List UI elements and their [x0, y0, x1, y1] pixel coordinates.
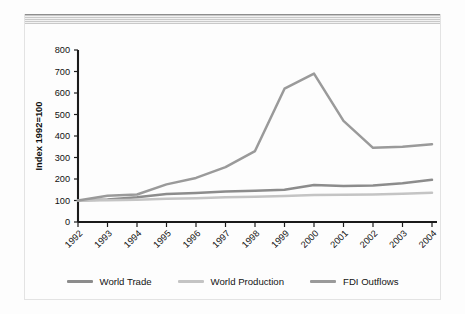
x-tick-label: 2001 — [328, 228, 350, 250]
legend-item-world-trade[interactable]: World Trade — [67, 276, 152, 287]
plot-area: 0100200300400500600700800 19921993199419… — [0, 0, 465, 314]
y-axis-tick-labels: 0100200300400500600700800 — [55, 45, 70, 227]
x-tick-label: 1993 — [92, 228, 114, 250]
x-tick-label: 2004 — [417, 228, 439, 250]
y-tick-label: 800 — [55, 45, 70, 55]
legend-swatch-icon — [67, 280, 93, 283]
chart-legend: World TradeWorld ProductionFDI Outflows — [24, 271, 441, 291]
x-tick-label: 1997 — [210, 228, 232, 250]
legend-label: FDI Outflows — [343, 276, 398, 287]
y-axis-title: Index 1992=100 — [33, 101, 44, 170]
y-tick-label: 600 — [55, 88, 70, 98]
y-tick-label: 700 — [55, 67, 70, 77]
x-axis-tick-labels: 1992199319941995199619971998199920002001… — [63, 228, 439, 250]
legend-item-world-production[interactable]: World Production — [178, 276, 284, 287]
y-tick-label: 100 — [55, 196, 70, 206]
legend-item-fdi-outflows[interactable]: FDI Outflows — [310, 276, 398, 287]
y-tick-label: 200 — [55, 174, 70, 184]
x-tick-label: 1994 — [122, 228, 144, 250]
line-chart-svg: 0100200300400500600700800 19921993199419… — [0, 0, 465, 314]
legend-label: World Trade — [100, 276, 152, 287]
legend-label: World Production — [211, 276, 284, 287]
chart-page: 0100200300400500600700800 19921993199419… — [0, 0, 465, 314]
series-line-fdi-outflows — [78, 74, 432, 201]
x-tick-label: 2000 — [299, 228, 321, 250]
x-tick-label: 1999 — [269, 228, 291, 250]
x-tick-label: 1995 — [151, 228, 173, 250]
y-tick-label: 0 — [65, 217, 70, 227]
x-tick-label: 2002 — [358, 228, 380, 250]
y-tick-label: 400 — [55, 131, 70, 141]
y-tick-label: 500 — [55, 110, 70, 120]
legend-swatch-icon — [178, 280, 204, 283]
x-tick-label: 1998 — [240, 228, 262, 250]
x-tick-label: 2003 — [387, 228, 409, 250]
x-tick-label: 1996 — [181, 228, 203, 250]
legend-swatch-icon — [310, 280, 336, 283]
x-tick-label: 1992 — [63, 228, 85, 250]
data-series-group — [78, 74, 432, 201]
y-tick-label: 300 — [55, 153, 70, 163]
